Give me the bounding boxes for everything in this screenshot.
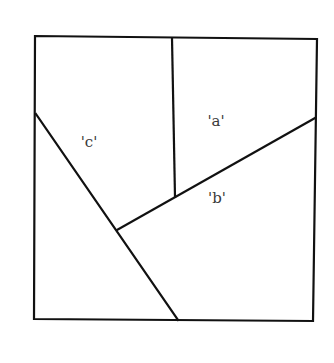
region-label-b: 'b' xyxy=(208,189,226,207)
diagonal-c-line xyxy=(36,114,178,320)
region-label-c: 'c' xyxy=(81,133,98,151)
vertical-divider-line xyxy=(172,38,175,197)
region-label-a: 'a' xyxy=(207,112,224,130)
diagonal-b-line xyxy=(117,118,315,230)
partition-diagram: 'a' 'b' 'c' xyxy=(0,0,334,363)
